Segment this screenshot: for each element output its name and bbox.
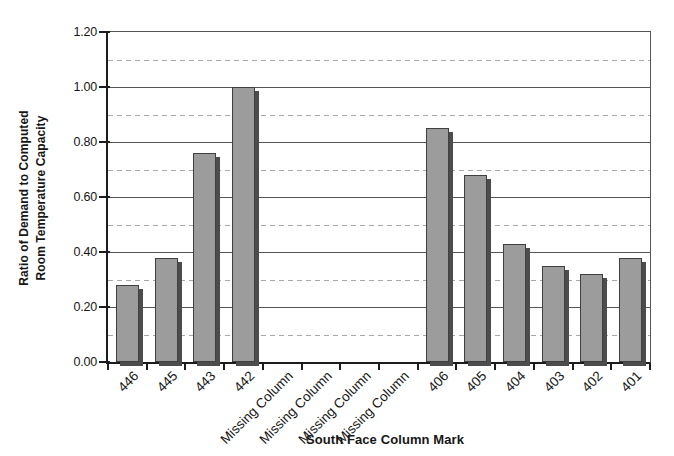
gridline-major	[108, 197, 650, 198]
y-tick-label: 1.20	[37, 26, 97, 39]
category-label-text: 405	[464, 369, 489, 394]
category-label-text: 443	[193, 369, 218, 394]
x-axis-tick	[223, 363, 225, 370]
gridline-major	[108, 142, 650, 143]
y-tick-label: 0.00	[37, 356, 97, 369]
plot-area	[106, 31, 651, 364]
y-axis-tick	[99, 31, 110, 33]
x-axis-tick	[378, 363, 380, 370]
gridline-minor	[108, 335, 650, 336]
bar	[464, 175, 487, 362]
bar	[426, 128, 449, 362]
category-label-text: 445	[154, 369, 179, 394]
bar	[580, 274, 603, 362]
gridline-minor	[108, 115, 650, 116]
category-label-text: 446	[115, 369, 140, 394]
category-label-text: 403	[541, 369, 566, 394]
gridline-minor	[108, 60, 650, 61]
x-axis-tick	[107, 363, 109, 370]
y-axis-tick	[99, 196, 110, 198]
y-axis-tick	[99, 306, 110, 308]
bar	[503, 244, 526, 362]
y-tick-label: 0.80	[37, 136, 97, 149]
y-axis-title-line1: Ratio of Demand to Computed	[16, 0, 33, 398]
x-axis-tick	[455, 363, 457, 370]
category-label-text: 404	[503, 369, 528, 394]
y-tick-label: 0.40	[37, 246, 97, 259]
bar	[155, 258, 178, 363]
x-axis-tick	[262, 363, 264, 370]
gridline-minor	[108, 225, 650, 226]
x-axis-tick	[533, 363, 535, 370]
category-label-text: 401	[619, 369, 644, 394]
bar-chart: Ratio of Demand to Computed Room Tempera…	[0, 0, 674, 456]
bar	[193, 153, 216, 362]
x-axis-tick	[339, 363, 341, 370]
x-axis-tick	[649, 363, 651, 370]
x-axis-tick	[301, 363, 303, 370]
x-axis-tick	[146, 363, 148, 370]
x-axis-title: South Face Column Mark	[114, 432, 656, 447]
x-axis-tick	[572, 363, 574, 370]
bar	[232, 87, 255, 362]
x-axis-tick	[184, 363, 186, 370]
y-axis-tick	[99, 86, 110, 88]
category-label-text: 442	[232, 369, 257, 394]
gridline-major	[108, 87, 650, 88]
x-axis-tick	[417, 363, 419, 370]
gridline-minor	[108, 280, 650, 281]
category-label-text: 406	[425, 369, 450, 394]
x-axis-tick	[494, 363, 496, 370]
y-tick-label: 0.60	[37, 191, 97, 204]
y-axis-tick	[99, 141, 110, 143]
bar	[619, 258, 642, 363]
gridline-minor	[108, 170, 650, 171]
x-axis-tick	[610, 363, 612, 370]
gridline-major	[108, 252, 650, 253]
category-label-text: 402	[580, 369, 605, 394]
y-tick-label: 0.20	[37, 301, 97, 314]
bar	[542, 266, 565, 362]
gridline-major	[108, 307, 650, 308]
bar	[116, 285, 139, 362]
y-axis-tick	[99, 251, 110, 253]
y-tick-label: 1.00	[37, 81, 97, 94]
